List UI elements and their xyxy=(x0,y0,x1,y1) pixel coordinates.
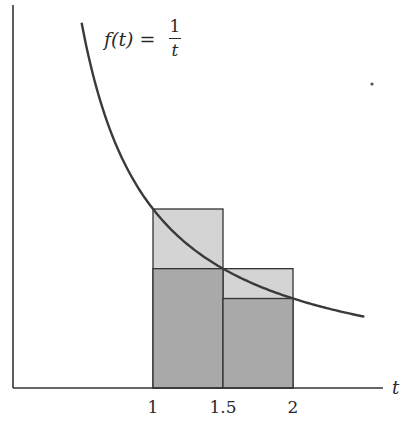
rectangles-group xyxy=(153,209,293,388)
x-tick-1-5: 1.5 xyxy=(209,397,236,417)
riemann-sum-chart xyxy=(0,0,407,430)
stray-dot xyxy=(370,82,373,85)
fraction-numerator: 1 xyxy=(167,18,182,35)
x-axis-label: t xyxy=(392,377,399,398)
x-tick-2: 2 xyxy=(288,397,299,417)
function-label: f(t) = 1 t xyxy=(104,18,182,59)
lower-sum-2-rect xyxy=(223,299,293,389)
equals-sign: = xyxy=(140,28,156,50)
fraction: 1 t xyxy=(167,18,182,59)
fraction-denominator: t xyxy=(171,42,178,59)
function-lhs: f(t) xyxy=(104,28,134,50)
x-tick-1: 1 xyxy=(148,397,159,417)
lower-sum-1-rect xyxy=(153,269,223,388)
fraction-bar xyxy=(169,38,181,39)
